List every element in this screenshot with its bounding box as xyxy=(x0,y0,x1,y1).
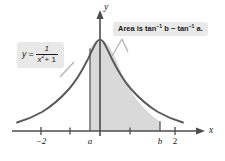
fraction-denominator: x2+ 1 xyxy=(36,56,58,64)
tick-label-a: a xyxy=(83,136,97,146)
tick-label-minus-two: −2 xyxy=(33,136,49,146)
equation-callout: y = 1 x2+ 1 xyxy=(17,42,64,68)
tick-label-two: 2 xyxy=(168,136,182,146)
leader-line-area-right xyxy=(122,39,128,52)
fraction-numerator: 1 xyxy=(42,45,52,53)
x-axis-arrowhead xyxy=(196,127,205,134)
equation-lhs: y = xyxy=(22,50,36,59)
area-text-mid-one: b − tan xyxy=(162,24,188,33)
area-text-mid-two: a. xyxy=(194,24,202,33)
denominator-tail: + 1 xyxy=(45,55,56,64)
area-text-prefix: Area is tan xyxy=(118,24,156,33)
tick-label-b: b xyxy=(153,136,167,146)
area-under-curve-figure: y = 1 x2+ 1 Area is tan−1 b − tan−1 a. y… xyxy=(0,0,225,161)
y-axis-label: y xyxy=(104,2,108,12)
equation-fraction: 1 x2+ 1 xyxy=(36,45,58,64)
y-axis-arrowhead xyxy=(96,10,103,19)
area-callout: Area is tan−1 b − tan−1 a. xyxy=(113,22,208,36)
leader-line-area-left xyxy=(112,39,122,56)
equation-row: y = 1 x2+ 1 xyxy=(22,45,58,64)
x-axis-label: x xyxy=(209,125,213,135)
